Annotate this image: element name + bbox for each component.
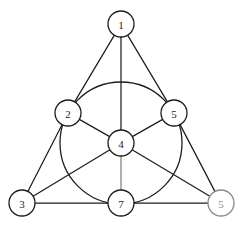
fano-plane-diagram: 1254375 [0, 0, 243, 228]
node-bottom-middle[interactable]: 7 [108, 190, 134, 216]
node-bottom-right[interactable]: 5 [208, 190, 234, 216]
edge-5-4 [131, 119, 163, 137]
node-bottom-left[interactable]: 3 [9, 190, 35, 216]
edge-4-5 [131, 149, 210, 197]
node-label-top-apex: 1 [118, 19, 124, 31]
node-label-bottom-middle: 7 [118, 198, 124, 210]
node-top-apex[interactable]: 1 [108, 11, 134, 37]
node-center[interactable]: 4 [108, 130, 134, 156]
node-label-bottom-right: 5 [218, 198, 224, 210]
diagram-canvas: 1254375 [0, 0, 243, 228]
edge-1-2 [74, 34, 115, 102]
node-label-center: 4 [118, 138, 124, 150]
node-label-right-middle: 5 [171, 108, 177, 120]
node-label-left-middle: 2 [65, 108, 71, 120]
edge-2-4 [78, 119, 110, 137]
node-left-middle[interactable]: 2 [55, 100, 81, 126]
edge-1-5 [127, 34, 168, 102]
node-right-middle[interactable]: 5 [161, 100, 187, 126]
node-label-bottom-left: 3 [19, 198, 25, 210]
edge-4-3 [32, 149, 110, 197]
